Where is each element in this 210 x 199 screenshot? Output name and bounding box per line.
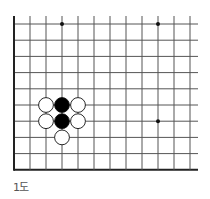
white-stone (55, 130, 70, 145)
diagram-caption: 1도 (13, 178, 29, 194)
go-board-diagram (0, 0, 210, 175)
white-stone (39, 114, 54, 129)
board-grid (14, 16, 198, 171)
star-point (60, 22, 64, 26)
white-stone (71, 114, 86, 129)
black-stone (55, 98, 70, 113)
star-point (156, 22, 160, 26)
white-stone (71, 98, 86, 113)
star-point (156, 119, 160, 123)
black-stone (55, 114, 70, 129)
white-stone (39, 98, 54, 113)
